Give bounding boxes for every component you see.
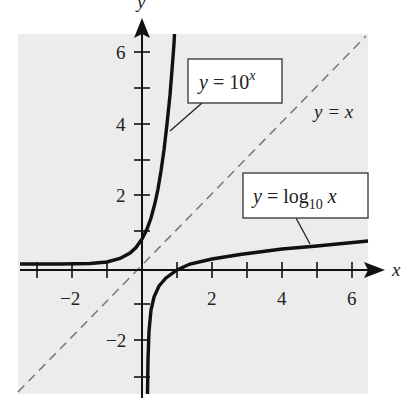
y-tick-label: 2 [116, 185, 126, 206]
x-tick-label: 6 [347, 288, 357, 309]
x-tick-label: 2 [207, 288, 217, 309]
x-tick-label: −2 [60, 288, 80, 309]
y-tick-label: 4 [116, 114, 126, 135]
y-axis-label: y [135, 0, 146, 12]
function-graph: y = 10x y = x y = log10 x −2 2 4 6 6 4 2… [0, 0, 420, 410]
identity-label: y = x [312, 101, 354, 122]
x-tick-label: 4 [277, 288, 287, 309]
y-tick-label: 6 [116, 42, 126, 63]
y-tick-label: −2 [106, 330, 126, 351]
svg-text:y = 10x: y = 10x [197, 68, 256, 94]
x-axis-label: x [391, 259, 401, 280]
